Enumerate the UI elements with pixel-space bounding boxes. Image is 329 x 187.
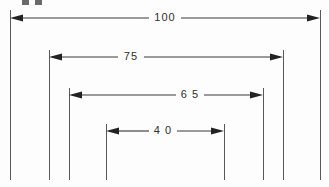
dimension-lines: 100756 54 0: [10, 11, 320, 136]
dim-75-arrow-right: [270, 54, 283, 61]
dimension-dim-75: 75: [49, 50, 283, 62]
dim-65-arrow-left-head: [69, 92, 82, 99]
dim-75-arrow-left-head: [49, 54, 62, 61]
cropped-text-stub-2: [35, 0, 42, 5]
dim-100-label: 100: [154, 11, 176, 23]
dimension-dim-40: 4 0: [106, 124, 224, 136]
dim-65-arrow-left: [69, 92, 82, 99]
cropped-text-stub-1: [22, 0, 29, 5]
dimension-dim-65: 6 5: [69, 88, 263, 100]
dim-75-arrow-right-head: [270, 54, 283, 61]
dim-65-label: 6 5: [181, 88, 200, 100]
dim-100-arrow-left: [10, 15, 23, 22]
dim-65-arrow-right: [250, 92, 263, 99]
drawing-surface: 100756 54 0: [0, 0, 329, 187]
dim-100-arrow-right: [307, 15, 320, 22]
dim-40-arrow-right: [211, 128, 224, 135]
dim-40-label: 4 0: [154, 124, 173, 136]
dim-75-arrow-left: [49, 54, 62, 61]
dim-100-arrow-right-head: [307, 15, 320, 22]
dimension-dim-100: 100: [10, 11, 320, 23]
dim-75-label: 75: [124, 50, 138, 62]
dim-100-arrow-left-head: [10, 15, 23, 22]
engineering-dimension-drawing: 100756 54 0: [0, 0, 329, 187]
dim-40-arrow-left: [106, 128, 119, 135]
dim-40-arrow-right-head: [211, 128, 224, 135]
cropped-text-remnant: [22, 0, 42, 5]
dim-40-arrow-left-head: [106, 128, 119, 135]
dim-65-arrow-right-head: [250, 92, 263, 99]
